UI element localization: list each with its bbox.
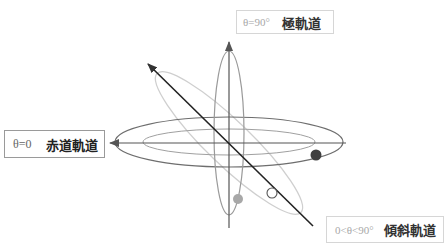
equatorial-orbit-name: 赤道軌道: [46, 135, 98, 154]
satellite-inclined: [267, 188, 277, 198]
equatorial-orbit-equation: θ=0: [13, 137, 32, 152]
satellite-equatorial: [311, 150, 322, 161]
inclined-orbit-name: 傾斜軌道: [384, 220, 436, 239]
polar-orbit-label: θ=90° 極軌道: [236, 10, 334, 34]
polar-orbit-equation: θ=90°: [243, 16, 270, 28]
polar-orbit-name: 極軌道: [282, 13, 321, 32]
inclined-orbit-label: 0<θ<90° 傾斜軌道: [326, 216, 444, 243]
satellite-polar: [233, 194, 243, 204]
orbit-diagram: [0, 0, 444, 247]
equatorial-orbit-label: θ=0 赤道軌道: [4, 130, 105, 158]
inclined-orbit-equation: 0<θ<90°: [335, 224, 374, 236]
inclined-axis: [148, 64, 313, 226]
